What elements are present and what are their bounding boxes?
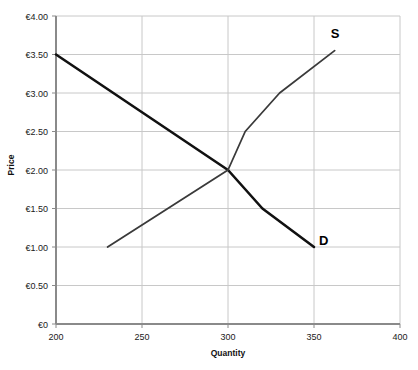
y-tick-label: €1.50 — [25, 204, 48, 214]
supply-demand-chart: €0€0.50€1.00€1.50€2.00€2.50€3.00€3.50€4.… — [0, 0, 418, 370]
chart-background — [0, 0, 418, 370]
x-tick-label: 250 — [134, 332, 149, 342]
demand-curve-label: D — [319, 233, 328, 248]
x-axis-title: Quantity — [211, 348, 246, 358]
y-tick-label: €4.00 — [25, 12, 48, 22]
y-tick-label: €1.00 — [25, 243, 48, 253]
y-tick-label: €3.50 — [25, 50, 48, 60]
x-tick-label: 350 — [306, 332, 321, 342]
y-tick-label: €2.00 — [25, 166, 48, 176]
y-tick-label: €0.50 — [25, 281, 48, 291]
x-tick-label: 400 — [392, 332, 407, 342]
x-tick-label: 300 — [220, 332, 235, 342]
y-tick-label: €3.00 — [25, 89, 48, 99]
y-axis-title: Price — [6, 154, 16, 175]
supply-curve-label: S — [331, 26, 340, 41]
y-tick-label: €0 — [38, 320, 48, 330]
y-tick-label: €2.50 — [25, 127, 48, 137]
chart-canvas: €0€0.50€1.00€1.50€2.00€2.50€3.00€3.50€4.… — [0, 0, 418, 370]
x-tick-label: 200 — [48, 332, 63, 342]
